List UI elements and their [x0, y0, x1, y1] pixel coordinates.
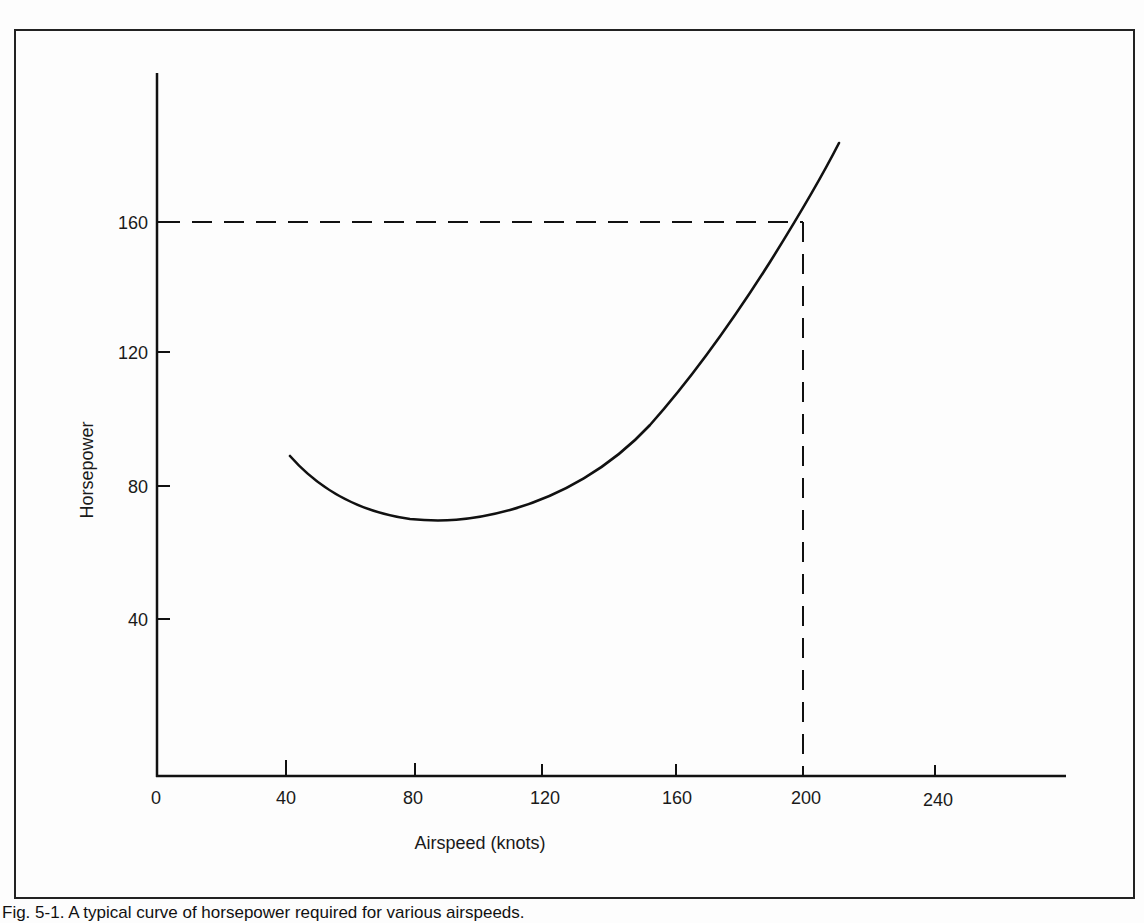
y-ticks: 40 80 120 160 [118, 213, 170, 630]
y-tick-label: 40 [128, 610, 148, 630]
x-tick-label: 80 [403, 788, 423, 808]
horsepower-curve [290, 143, 839, 520]
x-tick-label: 240 [923, 790, 953, 810]
x-tick-label: 160 [662, 788, 692, 808]
x-tick-label: 200 [791, 788, 821, 808]
x-tick-label: 40 [276, 788, 296, 808]
x-ticks: 0 40 80 120 160 200 240 [151, 760, 953, 810]
figure-caption: Fig. 5-1. A typical curve of horsepower … [2, 903, 525, 923]
x-tick-label: 0 [151, 788, 161, 808]
y-axis-title: Horsepower [77, 421, 97, 518]
y-tick-label: 120 [118, 343, 148, 363]
x-tick-label: 120 [530, 788, 560, 808]
y-tick-label: 160 [118, 213, 148, 233]
x-axis-title: Airspeed (knots) [414, 833, 545, 853]
y-tick-label: 80 [128, 477, 148, 497]
